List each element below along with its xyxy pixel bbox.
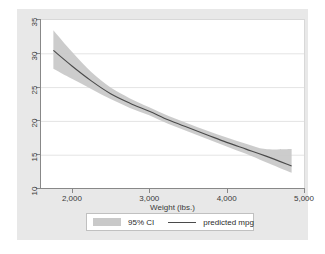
x-axis-title: Weight (lbs.) xyxy=(41,203,304,212)
legend-ci-label: 95% CI xyxy=(128,218,154,227)
x-tick-label: 5,000 xyxy=(294,194,314,203)
x-tick-mark xyxy=(304,189,305,193)
x-tick-mark xyxy=(149,189,150,193)
chart-page: 101520253035 2,0003,0004,0005,000 Weight… xyxy=(0,0,325,254)
x-tick-label: 2,000 xyxy=(62,194,82,203)
y-axis-line xyxy=(40,19,41,189)
y-tick-label: 35 xyxy=(30,18,39,52)
y-tick-label: 20 xyxy=(30,119,39,153)
y-tick-label: 30 xyxy=(30,51,39,85)
x-tick-label: 4,000 xyxy=(217,194,237,203)
plot-svg xyxy=(41,20,304,189)
legend-line-swatch xyxy=(168,222,196,223)
ci-band-95 xyxy=(53,30,291,173)
x-tick-label: 3,000 xyxy=(139,194,159,203)
x-tick-mark xyxy=(227,189,228,193)
chart-legend: 95% CI predicted mpg xyxy=(86,213,254,231)
plot-area xyxy=(41,19,305,189)
legend-ci-swatch xyxy=(93,218,121,226)
x-axis-line xyxy=(40,188,305,189)
x-tick-mark xyxy=(72,189,73,193)
y-tick-label: 15 xyxy=(30,153,39,187)
y-tick-label: 25 xyxy=(30,85,39,119)
legend-line-label: predicted mpg xyxy=(203,218,254,227)
y-tick-label: 10 xyxy=(30,187,39,221)
